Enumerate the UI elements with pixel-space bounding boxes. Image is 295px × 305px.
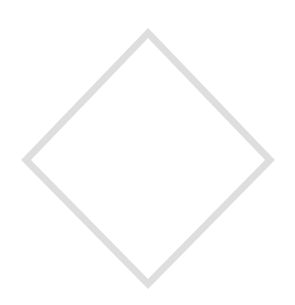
drawing-canvas <box>0 0 295 305</box>
canvas-background <box>0 0 295 305</box>
diamond-shape-svg <box>0 0 295 305</box>
